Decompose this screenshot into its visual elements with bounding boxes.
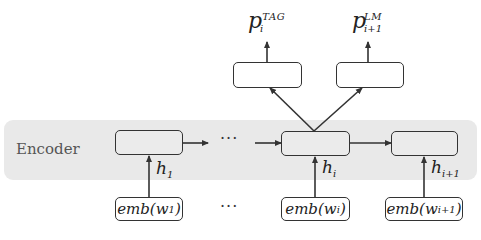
tag-head-box [233, 62, 302, 88]
arrow-hi-to-lm-head [314, 88, 362, 131]
arrow-hi-to-tag-head [270, 88, 314, 131]
encoder-cell-1 [115, 130, 183, 155]
hidden-label-i: hi [322, 157, 336, 179]
encoder-diagram: Encoder piTAG pi+1LM ··· h1 [0, 0, 481, 240]
ellipsis-encoder: ··· [220, 129, 238, 148]
ellipsis-embeddings: ··· [220, 197, 238, 216]
hidden-label-i1: hi+1 [431, 157, 460, 179]
lm-head-box [336, 62, 404, 88]
hidden-label-1: h1 [156, 158, 173, 180]
encoder-cell-i [281, 131, 350, 156]
embedding-box-i1: emb(wi+1) [385, 197, 463, 221]
embedding-box-i: emb(wi) [281, 197, 350, 221]
encoder-cell-i1 [391, 131, 458, 156]
embedding-box-1: emb(w1) [115, 197, 183, 221]
output-label-tag: piTAG [248, 8, 285, 34]
output-label-lm: pi+1LM [352, 8, 382, 34]
